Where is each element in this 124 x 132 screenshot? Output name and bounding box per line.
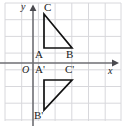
vertex-label-b-prime: B' [34, 110, 43, 121]
vertex-label-c-prime: C' [65, 64, 74, 75]
triangle-abc [44, 14, 72, 48]
figure-canvas [0, 0, 124, 132]
origin-label: O [22, 65, 29, 75]
y-axis-arrow-icon [30, 5, 37, 12]
vertex-label-a: A [35, 49, 43, 60]
vertex-label-c: C [44, 2, 51, 13]
x-axis-label: x [108, 66, 112, 76]
vertex-label-a-prime: A' [35, 64, 45, 75]
x-axis-arrow-icon [112, 59, 119, 66]
coordinate-plane-figure: y x O A B C A' C' B' [0, 0, 124, 132]
triangle-a-prime-b-prime-c-prime [44, 80, 72, 110]
y-axis-label: y [21, 2, 25, 12]
axes [0, 10, 113, 126]
grid-lines [5, 3, 121, 121]
vertex-label-b: B [66, 49, 73, 60]
